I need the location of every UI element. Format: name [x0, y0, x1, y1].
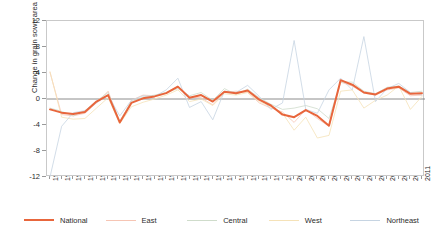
- legend-item-east: East: [106, 216, 188, 225]
- legend-item-national: National: [24, 216, 106, 225]
- legend-item-west: West: [269, 216, 351, 225]
- legend-item-central: Central: [187, 216, 269, 225]
- y-tick-label: 8: [0, 42, 40, 51]
- y-tick-label: 4: [0, 68, 40, 77]
- y-tick-label: -8: [0, 146, 40, 155]
- legend-label-national: National: [60, 216, 88, 225]
- series-line-national: [50, 80, 422, 126]
- legend-item-northeast: Northeast: [350, 216, 432, 225]
- x-tick-label: 2011: [424, 166, 431, 181]
- series-line-central: [50, 82, 422, 121]
- y-tick-label: 12: [0, 16, 40, 25]
- series-line-west: [50, 72, 422, 138]
- legend-label-northeast: Northeast: [386, 216, 419, 225]
- y-tick-label: -4: [0, 120, 40, 129]
- legend-swatch-national: [24, 219, 54, 221]
- legend-swatch-east: [106, 220, 136, 221]
- plot-area: [46, 20, 424, 176]
- legend-swatch-central: [187, 220, 217, 221]
- y-tick-label: -12: [0, 172, 40, 181]
- chart-legend: National East Central West Northeast: [24, 213, 432, 227]
- legend-swatch-northeast: [350, 220, 380, 221]
- series-lines: [47, 21, 425, 177]
- y-axis-ticks: 12840-4-8-12: [0, 0, 44, 236]
- legend-label-central: Central: [223, 216, 247, 225]
- legend-label-west: West: [305, 216, 322, 225]
- y-tick-label: 0: [0, 94, 40, 103]
- legend-swatch-west: [269, 220, 299, 221]
- chart-figure: Change in grain sown area (%) 12840-4-8-…: [0, 0, 441, 236]
- y-tick-mark: [42, 176, 46, 177]
- legend-label-east: East: [142, 216, 157, 225]
